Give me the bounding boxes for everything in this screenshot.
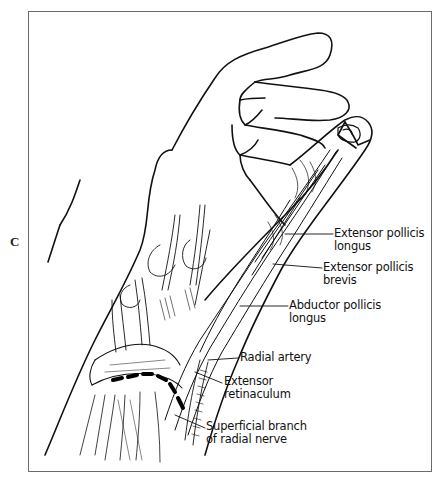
- label-abductor-pollicis-longus: Abductor pollicis longus: [289, 299, 381, 325]
- incision-line: [113, 374, 183, 408]
- extensor-retinaculum: [90, 344, 182, 388]
- hand-outline: [45, 33, 372, 455]
- forearm-tendons: [80, 392, 160, 462]
- label-extensor-pollicis-brevis: Extensor pollicis brevis: [323, 261, 413, 287]
- label-extensor-pollicis-longus: Extensor pollicis longus: [334, 227, 424, 253]
- label-extensor-retinaculum: Extensor retinaculum: [224, 375, 291, 401]
- label-radial-artery: Radial artery: [240, 351, 311, 364]
- label-superficial-branch-radial-nerve: Superficial branch of radial nerve: [206, 420, 307, 446]
